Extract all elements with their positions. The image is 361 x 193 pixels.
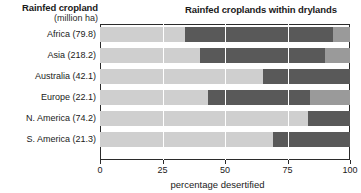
tick-mark-100 [350,160,351,164]
tick-mark-0 [100,160,101,164]
chart-title: Rainfed croplands within drylands [185,4,337,15]
left-axis-title: Rainfed cropland [0,2,98,14]
tick-label-50: 50 [220,165,230,176]
category-label-asia: Asia (218.2) [0,50,96,61]
category-label-africa: Africa (79.8) [0,29,96,40]
chart-container: Rainfed cropland (million ha) Rainfed cr… [0,0,361,193]
bar-segment-dark [308,111,351,126]
tick-label-75: 75 [282,165,292,176]
bar-segment-dark [273,132,351,147]
category-label-n-america: N. America (74.2) [0,113,96,124]
gridline-25 [163,24,164,160]
tick-label-25: 25 [157,165,167,176]
tick-mark-25 [163,160,164,164]
tick-label-0: 0 [97,165,102,176]
gridline-75 [288,24,289,160]
category-label-europe: Europe (22.1) [0,92,96,103]
bar-segment-light [100,69,263,84]
category-label-s-america: S. America (21.3) [0,134,96,145]
plot-area [100,24,350,160]
bar-segment-light [100,132,273,147]
category-label-australia: Australia (42.1) [0,71,96,82]
tick-mark-50 [225,160,226,164]
left-axis-units: (million ha) [0,13,98,24]
bar-segment-dark [185,27,333,42]
x-axis-title: percentage desertified [170,179,264,190]
tick-mark-75 [288,160,289,164]
gridline-50 [225,24,226,160]
bar-segment-dark [200,48,325,63]
x-axis-title-wrap: percentage desertified [0,179,361,190]
bar-segment-dark [263,69,351,84]
bar-segment-light [100,111,308,126]
tick-label-100: 100 [342,165,357,176]
bar-segment-medium [333,27,351,42]
bar-segment-light [100,48,200,63]
bar-segment-medium [325,48,350,63]
bar-segment-light [100,27,185,42]
bar-segment-medium [310,90,350,105]
bar-segment-light [100,90,208,105]
bar-segment-dark [208,90,311,105]
